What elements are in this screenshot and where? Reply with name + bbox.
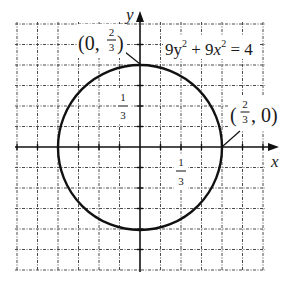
scale-label-x: 1 3 bbox=[174, 154, 188, 190]
frac-den-right: 3 bbox=[242, 113, 248, 125]
scale-y-num: 1 bbox=[120, 91, 126, 103]
equation-label: 9y2 + 9x2 = 4 bbox=[163, 35, 259, 59]
paren-open: (0, bbox=[78, 32, 100, 55]
paren-open-right: ( bbox=[230, 104, 237, 127]
point-label-top: (0, 2 3 ) bbox=[78, 24, 126, 58]
svg-text:(0,: (0, bbox=[78, 32, 100, 55]
leader-line-right bbox=[223, 131, 240, 146]
svg-text:9y2 + 9x2 = 4: 9y2 + 9x2 = 4 bbox=[165, 38, 253, 59]
circle-graph-figure: x y (0, 2 3 ) 9y2 + 9x2 = 4 ( 2 3 , 0) 1… bbox=[0, 0, 294, 285]
frac-num-top: 2 bbox=[109, 26, 115, 38]
paren-close-top: ) bbox=[117, 32, 124, 55]
y-axis-arrow-icon bbox=[136, 11, 144, 22]
scale-label-y: 1 3 bbox=[116, 89, 130, 123]
scale-y-den: 3 bbox=[120, 109, 126, 121]
eq-plus: + 9 bbox=[187, 40, 214, 59]
eq-term-y: 9y bbox=[165, 40, 183, 59]
frac-num-right: 2 bbox=[242, 98, 248, 110]
leader-line-top bbox=[125, 52, 140, 64]
eq-rhs: = 4 bbox=[226, 40, 253, 59]
paren-close-right: , 0) bbox=[251, 104, 278, 127]
frac-den-top: 3 bbox=[109, 41, 115, 53]
y-axis-label: y bbox=[124, 5, 134, 24]
x-axis-label: x bbox=[270, 152, 279, 171]
point-label-right: ( 2 3 , 0) bbox=[229, 96, 279, 130]
scale-x-den: 3 bbox=[178, 175, 184, 187]
x-axis-arrow-icon bbox=[268, 143, 279, 151]
scale-x-num: 1 bbox=[178, 156, 184, 168]
